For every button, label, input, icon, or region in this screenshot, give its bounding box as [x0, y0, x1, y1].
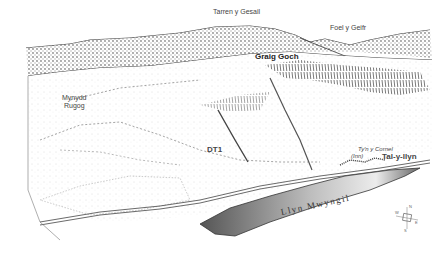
label-foel-y-geifr: Foel y Geifr [330, 24, 366, 31]
label-dt1: DT1 [207, 146, 222, 154]
svg-text:W: W [395, 210, 399, 215]
compass-rose-icon: N E S W [394, 203, 420, 233]
svg-text:E: E [415, 220, 418, 225]
label-mynydd: Mynydd [62, 94, 87, 101]
label-tarren-y-gesail: Tarren y Gesail [213, 8, 260, 15]
svg-text:S: S [404, 228, 407, 233]
label-tal-y-llyn: Tal-y-llyn [382, 153, 417, 161]
landscape-illustration: Tarren y Gesail Foel y Geifr Graig Goch … [0, 0, 440, 254]
landscape-drawing [0, 0, 440, 254]
label-inn: (Inn) [351, 153, 363, 159]
label-rugog: Rugog [64, 102, 85, 109]
svg-text:N: N [409, 204, 412, 209]
label-graig-goch: Graig Goch [255, 53, 299, 61]
